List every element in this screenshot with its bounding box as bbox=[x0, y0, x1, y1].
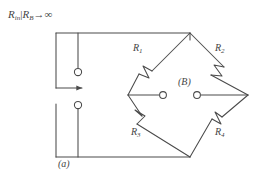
terminal-bridge-left[interactable] bbox=[160, 92, 167, 99]
branch-r4-lower bbox=[190, 119, 212, 157]
branch-r2-lower bbox=[211, 75, 248, 95]
terminal-bridge-right[interactable] bbox=[194, 92, 201, 99]
right-arrow-icon: → bbox=[33, 8, 44, 20]
bridge-label: (B) bbox=[178, 76, 191, 87]
resistor-r2-subscript: 2 bbox=[221, 47, 225, 55]
branch-r1-upper bbox=[152, 33, 190, 71]
resistor-label-r1: R1 bbox=[133, 42, 143, 55]
branch-r3-lower bbox=[137, 124, 190, 157]
wire-top-rail bbox=[56, 33, 190, 40]
resistor-label-r3: R3 bbox=[131, 126, 141, 139]
resistor-r3-subscript: 3 bbox=[137, 131, 141, 139]
part-label: (a) bbox=[58, 158, 70, 169]
figure-canvas: Rin|RB→∞ R1 R2 R3 R4 (B) (a) bbox=[0, 0, 260, 187]
input-resistance-label: Rin|RB→∞ bbox=[8, 8, 52, 24]
resistor-r2-zigzag bbox=[211, 65, 224, 76]
resistor-r1-zigzag bbox=[139, 66, 152, 78]
circuit-schematic bbox=[0, 0, 260, 187]
terminal-input-bottom[interactable] bbox=[74, 101, 81, 108]
resistor-r4-zigzag bbox=[212, 112, 222, 124]
branch-r1-lower bbox=[128, 74, 139, 95]
resistor-r1-subscript: 1 bbox=[139, 47, 143, 55]
resistor-r4-subscript: 4 bbox=[221, 131, 225, 139]
infinity-symbol: ∞ bbox=[44, 8, 52, 20]
input-resistance-symbol: R bbox=[8, 8, 15, 20]
resistor-label-r4: R4 bbox=[215, 126, 225, 139]
terminal-input-top[interactable] bbox=[74, 68, 81, 75]
branch-r4-upper bbox=[222, 95, 248, 117]
resistor-label-r2: R2 bbox=[215, 42, 225, 55]
